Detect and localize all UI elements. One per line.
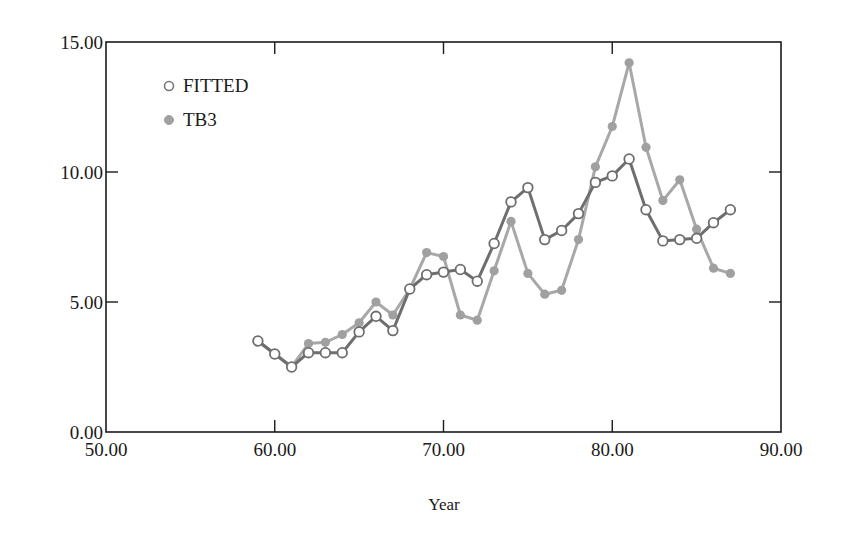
data-point bbox=[624, 154, 634, 164]
data-point bbox=[304, 339, 313, 348]
legend-tb3-marker-icon bbox=[165, 116, 174, 125]
data-point bbox=[354, 327, 364, 337]
data-point bbox=[490, 266, 499, 275]
data-point bbox=[472, 276, 482, 286]
data-point bbox=[253, 336, 263, 346]
data-point bbox=[287, 362, 297, 372]
data-point bbox=[641, 143, 650, 152]
data-point bbox=[607, 171, 617, 181]
data-point bbox=[557, 226, 567, 236]
data-point bbox=[574, 209, 584, 219]
data-point bbox=[456, 310, 465, 319]
data-point bbox=[574, 235, 583, 244]
data-point bbox=[506, 197, 516, 207]
legend: FITTED TB3 bbox=[165, 75, 249, 130]
data-point bbox=[337, 348, 347, 358]
x-tick-label: 70.00 bbox=[422, 439, 465, 460]
x-tick-label: 60.00 bbox=[253, 439, 296, 460]
data-point bbox=[675, 175, 684, 184]
y-tick-label: 0.00 bbox=[70, 422, 103, 443]
data-point bbox=[523, 183, 533, 193]
y-tick-label: 5.00 bbox=[70, 292, 103, 313]
data-point bbox=[692, 234, 702, 244]
x-tick-label: 90.00 bbox=[760, 439, 803, 460]
data-point bbox=[591, 178, 601, 188]
data-point bbox=[709, 218, 719, 228]
data-point bbox=[692, 225, 701, 234]
x-axis-title: Year bbox=[428, 495, 460, 514]
data-point bbox=[371, 297, 380, 306]
data-point bbox=[641, 205, 651, 215]
data-point bbox=[439, 252, 448, 261]
data-point bbox=[709, 264, 718, 273]
x-tick-label: 80.00 bbox=[591, 439, 634, 460]
legend-fitted-marker-icon bbox=[165, 82, 174, 91]
axis-tick-labels: 50.0060.0070.0080.0090.000.005.0010.0015… bbox=[60, 32, 802, 460]
data-point bbox=[371, 312, 381, 322]
data-point bbox=[338, 330, 347, 339]
y-tick-label: 15.00 bbox=[60, 32, 103, 53]
legend-fitted-label: FITTED bbox=[183, 75, 248, 96]
data-point bbox=[557, 286, 566, 295]
data-point bbox=[321, 348, 331, 358]
data-point bbox=[388, 326, 398, 336]
data-point bbox=[405, 284, 415, 294]
data-point bbox=[304, 348, 314, 358]
data-point bbox=[355, 318, 364, 327]
data-point bbox=[270, 349, 280, 359]
y-tick-label: 10.00 bbox=[60, 162, 103, 183]
data-point bbox=[473, 316, 482, 325]
series-tb3 bbox=[253, 58, 735, 371]
data-point bbox=[388, 310, 397, 319]
legend-tb3-label: TB3 bbox=[183, 109, 217, 130]
data-point bbox=[591, 162, 600, 171]
data-point bbox=[523, 269, 532, 278]
data-point bbox=[422, 248, 431, 257]
series-line bbox=[258, 63, 731, 367]
data-point bbox=[540, 235, 550, 245]
data-point bbox=[726, 205, 736, 215]
data-point bbox=[540, 290, 549, 299]
data-point bbox=[625, 58, 634, 67]
data-point bbox=[608, 122, 617, 131]
data-point bbox=[439, 267, 449, 277]
data-point bbox=[658, 236, 668, 246]
data-point bbox=[321, 338, 330, 347]
data-point bbox=[726, 269, 735, 278]
data-point bbox=[658, 196, 667, 205]
line-chart: 50.0060.0070.0080.0090.000.005.0010.0015… bbox=[0, 0, 855, 535]
data-point bbox=[489, 239, 499, 249]
data-point bbox=[456, 265, 466, 275]
data-point bbox=[506, 217, 515, 226]
data-point bbox=[675, 235, 685, 245]
data-point bbox=[422, 270, 432, 280]
series-layer bbox=[253, 58, 735, 372]
